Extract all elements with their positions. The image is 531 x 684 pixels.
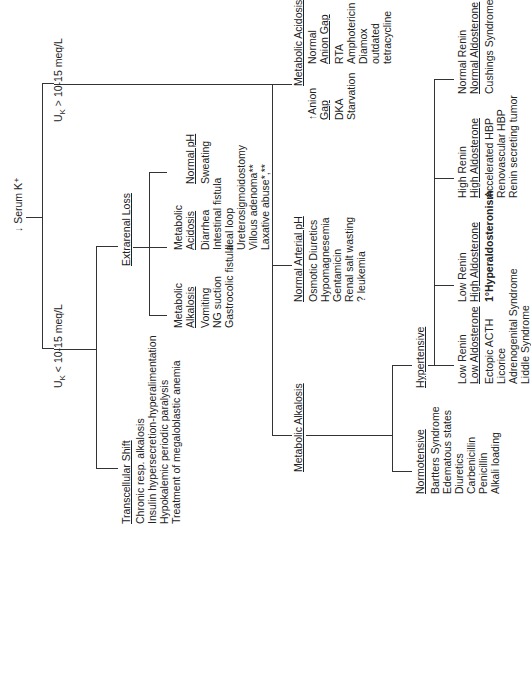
renal-alkalosis-title: Metabolic Alkalosis [292,383,304,472]
renal-bar [272,84,273,436]
hypertensive-title: Hypertensive [414,327,426,388]
hypertensive-bar [434,80,435,366]
extrarenal-normal-ph: Normal pH Sweating [184,134,211,184]
low-uk-label: UK < 10-15 meq/L [52,304,69,388]
extrarenal-alkalosis: Metabolic Alkalosis Vomiting NG suction … [172,245,235,328]
renal-normal-ph: Normal Arterial pH Osmotic Diuretics Hyp… [292,216,367,302]
renal-acidosis-normal-gap: Normal Anion Gap RTA Amphotericin Diamox… [306,3,393,64]
transcellular-items: Chronic resp. alkalosis Insulin hypersec… [134,335,182,524]
normotensive-block: Normotensive Bartters Syndrome Edematous… [414,406,501,494]
root-label: ↓ Serum K⁺ [12,177,24,232]
root-stem [26,217,42,218]
renal-acidosis-title: Metabolic Acidosis [292,0,304,86]
flowchart-hypokalemia: ↓ Serum K⁺ UK < 10-15 meq/L UK > 10-15 m… [0,0,531,684]
transcellular-shift-block: Transcellular Shift [120,440,132,524]
root-bar [42,84,43,349]
hypertensive-group-2: High Renin High Aldosterone Accelerated … [456,95,519,198]
hypertensive-group-1: Low Renin High Aldosterone 1°Hyperaldost… [456,190,495,302]
high-uk-label: UK > 10-15 meq/L [52,38,69,122]
low-bar [96,247,97,469]
renal-acidosis-anion-gap: ↑Anion Gap DKA Starvation [306,73,357,120]
hypertensive-group-3: Normal Renin Normal Aldosterone Cushings… [456,0,495,94]
extrarenal-loss-title: Extrarenal Loss [120,193,132,266]
